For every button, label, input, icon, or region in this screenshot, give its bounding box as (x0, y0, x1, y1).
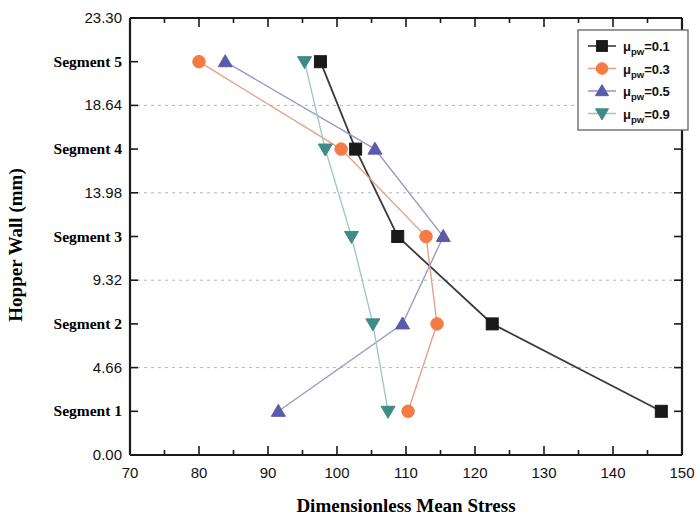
y-tick-label: 13.98 (84, 184, 122, 201)
data-point-0-3-seg5 (193, 55, 206, 68)
x-tick-label: 140 (600, 464, 625, 481)
data-point-0-3-seg1 (402, 405, 415, 418)
data-point-0-1-seg2 (486, 318, 498, 330)
y-segment-label: Segment 3 (54, 228, 123, 245)
y-segment-label: Segment 1 (54, 402, 122, 419)
data-point-0-3-seg4 (335, 143, 348, 156)
x-tick-label: 100 (324, 464, 349, 481)
x-tick-label: 70 (122, 464, 139, 481)
legend: μpw=0.1μpw=0.3μpw=0.5μpw=0.9 (578, 30, 688, 130)
legend-marker-0-1 (597, 41, 608, 52)
data-point-0-1-seg4 (350, 143, 362, 155)
mean-stress-vs-hopper-wall-chart: 708090100110120130140150 0.004.669.3213.… (0, 0, 697, 521)
y-segment-label: Segment 2 (54, 315, 123, 332)
y-tick-label: 23.30 (84, 9, 122, 26)
data-point-0-3-seg2 (431, 318, 444, 331)
y-tick-label: 4.66 (93, 359, 122, 376)
y-tick-label: 9.32 (93, 271, 122, 288)
data-point-0-1-seg5 (314, 56, 326, 68)
data-point-0-1-seg1 (655, 405, 667, 417)
x-tick-label: 80 (191, 464, 208, 481)
x-tick-label: 120 (462, 464, 487, 481)
data-point-0-3-seg3 (420, 230, 433, 243)
y-tick-label: 18.64 (84, 96, 122, 113)
y-segment-label: Segment 4 (54, 140, 123, 157)
data-point-0-1-seg3 (392, 231, 404, 243)
chart-container: 708090100110120130140150 0.004.669.3213.… (0, 0, 697, 521)
legend-marker-0-3 (596, 63, 608, 75)
x-axis-title: Dimensionless Mean Stress (296, 495, 515, 516)
x-tick-label: 150 (669, 464, 694, 481)
y-tick-label: 0.00 (93, 446, 122, 463)
x-tick-label: 110 (394, 464, 418, 481)
x-tick-label: 130 (531, 464, 556, 481)
y-axis-title: Hopper Wall (mm) (5, 168, 27, 321)
x-tick-label: 90 (260, 464, 277, 481)
y-segment-label: Segment 5 (54, 53, 123, 70)
